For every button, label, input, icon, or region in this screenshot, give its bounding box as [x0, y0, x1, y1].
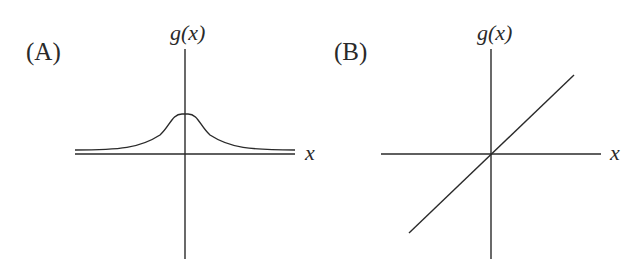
- panel-a: [75, 49, 295, 259]
- panel-b-x-axis-label: x: [610, 140, 620, 166]
- panel-a-x-axis-label: x: [305, 140, 315, 166]
- diagram-canvas: [0, 0, 639, 268]
- panel-b-label: (B): [334, 38, 367, 66]
- panel-b-y-axis-label: g(x): [477, 20, 512, 46]
- panel-a-label: (A): [26, 38, 61, 66]
- panel-b: [381, 49, 601, 259]
- panel-a-y-axis-label: g(x): [170, 20, 205, 46]
